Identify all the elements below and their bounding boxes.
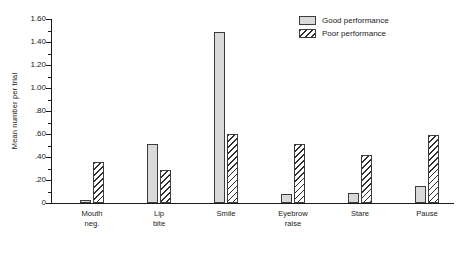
y-axis-minor-tick-mark: [48, 123, 51, 124]
bar-poor: [294, 144, 305, 203]
bar-group: [147, 19, 171, 203]
bar-good: [147, 144, 158, 203]
bar-good: [214, 32, 225, 203]
legend-label-poor: Poor performance: [322, 29, 386, 38]
category-label-line: Eyebrow: [260, 209, 326, 219]
bar-chart: Mean number per trial 0.20.40.60.801.001…: [0, 0, 475, 259]
y-axis-tick-mark: [46, 19, 51, 20]
y-axis-tick-mark: [46, 42, 51, 43]
y-axis-tick-label: 1.20: [20, 61, 46, 69]
x-axis-category-label: Stare: [327, 209, 393, 219]
category-label-line: Mouth: [59, 209, 125, 219]
y-axis-tick-label: 0: [20, 199, 46, 207]
chart-legend: Good performance Poor performance: [299, 15, 459, 41]
bar-poor: [227, 134, 238, 203]
y-axis-tick-mark: [46, 88, 51, 89]
bar-poor: [428, 135, 439, 203]
category-label-line: Lip: [126, 209, 192, 219]
y-axis-tick-label: 1.00: [20, 84, 46, 92]
legend-swatch-poor-icon: [299, 29, 316, 38]
category-label-line: Stare: [327, 209, 393, 219]
bar-group: [214, 19, 238, 203]
y-axis-tick-label: .60: [20, 130, 46, 138]
x-axis-line: [51, 203, 454, 204]
y-axis-minor-tick-mark: [48, 192, 51, 193]
y-axis-tick-mark: [46, 65, 51, 66]
bar-group: [415, 19, 439, 203]
y-axis-minor-tick-mark: [48, 146, 51, 147]
bar-good: [281, 194, 292, 203]
bar-group: [80, 19, 104, 203]
y-axis-minor-tick-mark: [48, 54, 51, 55]
y-axis-tick-label: 1.40: [20, 38, 46, 46]
x-axis-category-label: Mouthneg.: [59, 209, 125, 229]
category-label-line: raise: [260, 219, 326, 229]
x-axis-category-label: Lipbite: [126, 209, 192, 229]
y-axis-tick-mark: [46, 180, 51, 181]
x-axis-category-label: Eyebrowraise: [260, 209, 326, 229]
y-axis-minor-tick-mark: [48, 77, 51, 78]
bar-poor: [361, 155, 372, 203]
bar-good: [348, 193, 359, 203]
category-label-line: Pause: [394, 209, 460, 219]
y-axis-tick-labels: 0.20.40.60.801.001.201.401.60: [12, 0, 46, 259]
legend-label-good: Good performance: [322, 16, 389, 25]
y-axis-minor-tick-mark: [48, 31, 51, 32]
category-label-line: Smile: [193, 209, 259, 219]
legend-item-good: Good performance: [299, 15, 459, 26]
y-axis-tick-label: .40: [20, 153, 46, 161]
legend-swatch-good-icon: [299, 16, 316, 25]
bar-good: [415, 186, 426, 203]
y-axis-tick-mark: [46, 203, 51, 204]
plot-area: [52, 19, 454, 203]
bar-poor: [160, 170, 171, 203]
bar-group: [281, 19, 305, 203]
y-axis-minor-tick-mark: [48, 169, 51, 170]
y-axis-tick-label: .20: [20, 176, 46, 184]
y-axis-tick-mark: [46, 111, 51, 112]
y-axis-tick-mark: [46, 157, 51, 158]
x-axis-category-label: Pause: [394, 209, 460, 219]
category-label-line: neg.: [59, 219, 125, 229]
y-axis-tick-label: 1.60: [20, 15, 46, 23]
legend-item-poor: Poor performance: [299, 28, 459, 39]
x-axis-category-label: Smile: [193, 209, 259, 219]
bar-group: [348, 19, 372, 203]
bar-poor: [93, 162, 104, 203]
y-axis-tick-label: .80: [20, 107, 46, 115]
bar-good: [80, 200, 91, 203]
y-axis-minor-tick-mark: [48, 100, 51, 101]
y-axis-tick-mark: [46, 134, 51, 135]
category-label-line: bite: [126, 219, 192, 229]
